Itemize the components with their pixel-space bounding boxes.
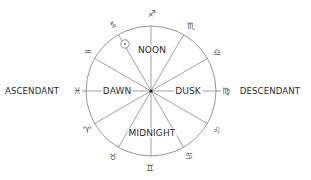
virgo-icon: ♍ <box>222 87 230 96</box>
dusk-label: DUSK <box>174 87 202 96</box>
sun-icon <box>121 40 129 48</box>
house-spoke <box>151 35 184 91</box>
house-spoke <box>151 91 184 147</box>
capricorn-icon: ♑ <box>109 21 117 30</box>
house-spoke <box>95 91 151 124</box>
scorpio-icon: ♏ <box>187 22 195 31</box>
noon-label: NOON <box>137 46 167 55</box>
dawn-label: DAWN <box>102 87 132 96</box>
descendant-label: DESCENDANT <box>240 87 300 96</box>
ascendant-label: ASCENDANT <box>5 87 59 96</box>
house-spoke <box>119 91 152 147</box>
taurus-icon: ♉ <box>109 153 117 162</box>
cancer-icon: ♋ <box>185 152 193 161</box>
aquarius-icon: ♒ <box>84 48 92 57</box>
leo-icon: ♌ <box>213 126 221 135</box>
aries-icon: ♈ <box>83 126 91 135</box>
center-dot <box>149 89 152 92</box>
pisces-icon: ♓ <box>73 87 81 96</box>
house-spoke <box>151 91 207 124</box>
libra-icon: ♎ <box>213 48 221 57</box>
sagittarius-icon: ♐ <box>148 10 156 19</box>
gemini-icon: ♊ <box>146 164 154 173</box>
astrological-chart: ASCENDANT DESCENDANT NOON DAWN DUSK MIDN… <box>0 0 311 180</box>
midnight-label: MIDNIGHT <box>128 129 177 138</box>
